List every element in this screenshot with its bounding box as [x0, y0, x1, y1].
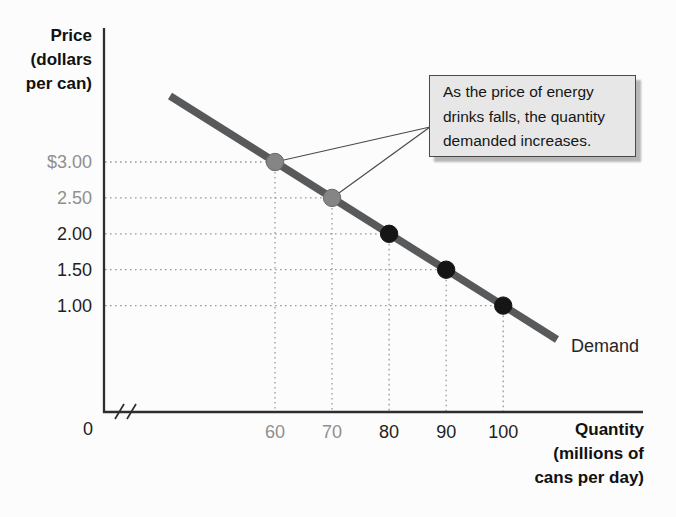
- y-tick-label: 2.00: [57, 224, 92, 244]
- data-point: [437, 261, 454, 278]
- origin-tick-label: 0: [78, 419, 98, 440]
- x-tick-label: 90: [436, 422, 456, 442]
- y-axis-title-line: Price: [50, 26, 92, 45]
- y-tick-label: 1.50: [57, 260, 92, 280]
- data-point: [495, 297, 512, 314]
- highlighted-data-point: [323, 189, 340, 206]
- demand-curve-figure: 60708090100$3.002.502.001.501.00 Price (…: [0, 0, 676, 517]
- y-axis-title-line: (dollars: [31, 50, 92, 69]
- x-tick-label: 60: [265, 422, 285, 442]
- annotation-text-line: demanded increases.: [443, 129, 629, 154]
- demand-series-label: Demand: [571, 336, 639, 357]
- y-axis-title-line: per can): [26, 74, 92, 93]
- highlighted-data-point: [266, 153, 283, 170]
- y-axis-title: Price (dollars per can): [4, 24, 92, 96]
- x-axis-title-line: cans per day): [534, 468, 644, 487]
- y-tick-label: 2.50: [57, 188, 92, 208]
- x-axis-title-line: (millions of: [553, 444, 644, 463]
- x-axis-title: Quantity (millions of cans per day): [470, 418, 644, 490]
- y-tick-label: 1.00: [57, 296, 92, 316]
- x-axis-title-line: Quantity: [575, 420, 644, 439]
- annotation-text-line: As the price of energy: [443, 80, 629, 105]
- annotation-callout-box: As the price of energy drinks falls, the…: [429, 75, 636, 157]
- y-tick-label: $3.00: [47, 152, 92, 172]
- x-tick-label: 80: [379, 422, 399, 442]
- data-point: [380, 225, 397, 242]
- annotation-text-line: drinks falls, the quantity: [443, 105, 629, 130]
- x-tick-label: 70: [322, 422, 342, 442]
